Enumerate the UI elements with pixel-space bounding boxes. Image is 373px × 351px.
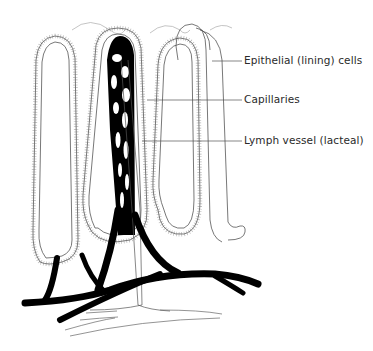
- label-lymph-vessel: Lymph vessel (lacteal): [244, 134, 364, 146]
- villus-right: [153, 38, 200, 234]
- label-epithelial-cells: Epithelial (lining) cells: [244, 54, 362, 66]
- label-capillaries: Capillaries: [244, 93, 300, 105]
- capillary-network: [107, 36, 135, 235]
- villus-left: [33, 36, 78, 264]
- villus-far-right: [176, 24, 245, 242]
- connective-tissue: [65, 310, 222, 336]
- background-folds: [72, 23, 232, 35]
- villus-diagram: [0, 0, 373, 351]
